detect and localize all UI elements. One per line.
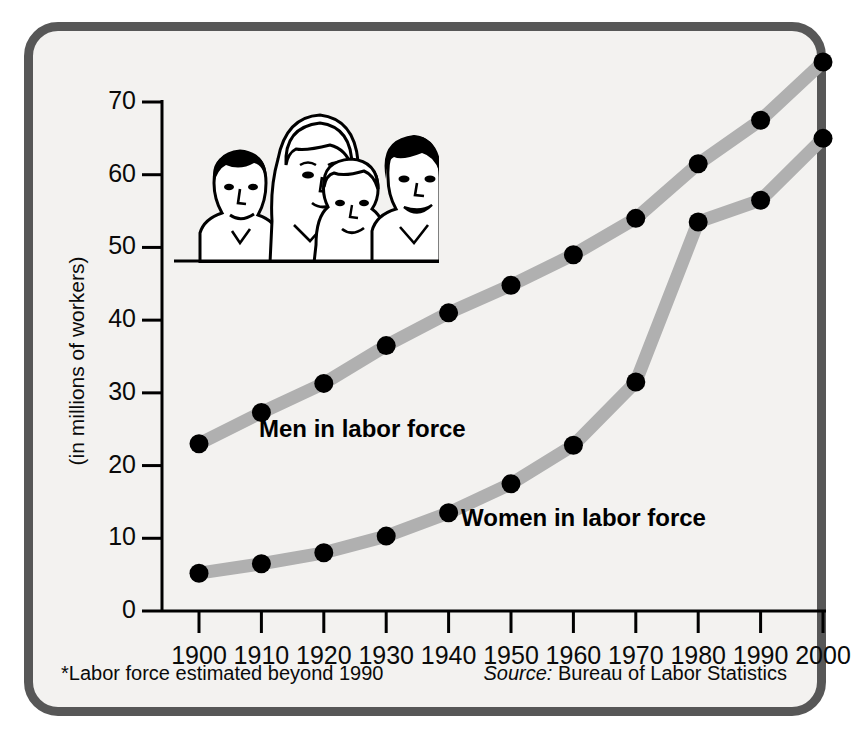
- data-point: [252, 554, 271, 573]
- data-point: [626, 372, 645, 391]
- data-point: [377, 336, 396, 355]
- data-point: [751, 111, 770, 130]
- four-workers-illustration: [174, 91, 439, 263]
- data-point: [564, 436, 583, 455]
- y-tick-label: 60: [76, 159, 136, 188]
- data-point: [439, 503, 458, 522]
- data-point: [689, 212, 708, 231]
- x-tick-label: 2000: [786, 641, 855, 670]
- data-point: [751, 191, 770, 210]
- series-label-men: Men in labor force: [259, 415, 466, 443]
- data-point: [502, 276, 521, 295]
- y-tick-label: 50: [76, 231, 136, 260]
- y-tick-label: 0: [76, 595, 136, 624]
- data-point: [190, 434, 209, 453]
- series-label-women: Women in labor force: [461, 504, 706, 532]
- chart-frame: (in millions of workers): [24, 22, 826, 716]
- data-point: [439, 303, 458, 322]
- data-point: [689, 154, 708, 173]
- data-point: [502, 474, 521, 493]
- x-axis-ticks: [199, 611, 823, 633]
- data-point: [814, 129, 833, 148]
- y-tick-label: 10: [76, 522, 136, 551]
- y-tick-label: 70: [76, 86, 136, 115]
- y-tick-label: 40: [76, 304, 136, 333]
- data-point: [314, 543, 333, 562]
- data-point: [814, 53, 833, 72]
- data-point: [626, 209, 645, 228]
- data-point: [190, 564, 209, 583]
- y-tick-label: 20: [76, 450, 136, 479]
- data-point: [377, 527, 396, 546]
- data-point: [314, 374, 333, 393]
- y-tick-label: 30: [76, 377, 136, 406]
- data-point: [564, 245, 583, 264]
- y-axis-ticks: [142, 102, 162, 611]
